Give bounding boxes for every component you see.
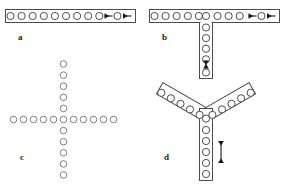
panel-label-b: b bbox=[162, 33, 167, 42]
bead bbox=[60, 161, 67, 168]
bead bbox=[60, 61, 67, 68]
bead bbox=[20, 116, 27, 123]
bead bbox=[60, 94, 67, 101]
bead bbox=[85, 12, 92, 19]
bead bbox=[247, 89, 254, 96]
bead bbox=[151, 12, 158, 19]
bead bbox=[173, 12, 180, 19]
bead bbox=[114, 12, 121, 19]
bead bbox=[60, 172, 67, 179]
bead bbox=[60, 138, 67, 145]
bead bbox=[202, 170, 209, 177]
bead bbox=[110, 116, 117, 123]
bead bbox=[29, 12, 36, 19]
bead bbox=[7, 12, 14, 19]
bead bbox=[162, 12, 169, 19]
bead bbox=[195, 12, 202, 19]
figure-svg bbox=[0, 0, 290, 191]
bead bbox=[218, 106, 225, 113]
bead bbox=[202, 126, 209, 133]
bead bbox=[186, 106, 193, 113]
bead bbox=[10, 116, 17, 123]
bead bbox=[202, 45, 209, 52]
bead bbox=[184, 12, 191, 19]
bead bbox=[40, 12, 47, 19]
panel-label-a: a bbox=[18, 33, 23, 42]
bead bbox=[202, 148, 209, 155]
bead bbox=[158, 89, 165, 96]
panel-a bbox=[6, 10, 136, 23]
bead bbox=[18, 12, 25, 19]
bead bbox=[60, 127, 67, 134]
panel-d bbox=[156, 83, 255, 181]
bead bbox=[74, 12, 81, 19]
panel-c-vertical-arm bbox=[60, 61, 67, 179]
bead bbox=[238, 95, 245, 102]
bead-junction bbox=[202, 12, 209, 19]
bead bbox=[60, 105, 67, 112]
bead bbox=[202, 24, 209, 31]
bead bbox=[196, 111, 203, 118]
bead bbox=[70, 116, 77, 123]
bead bbox=[202, 69, 209, 76]
bead bbox=[90, 116, 97, 123]
figure-canvas: a b c d bbox=[0, 0, 290, 191]
bead bbox=[202, 35, 209, 42]
bead bbox=[100, 116, 107, 123]
bead bbox=[214, 12, 221, 19]
bead bbox=[40, 116, 47, 123]
bead bbox=[96, 12, 103, 19]
panel-c bbox=[10, 61, 117, 179]
bead-center bbox=[60, 116, 67, 123]
bead bbox=[51, 12, 58, 19]
bead bbox=[60, 83, 67, 90]
bead bbox=[202, 159, 209, 166]
bead bbox=[167, 95, 174, 102]
bead bbox=[202, 137, 209, 144]
bead bbox=[225, 12, 232, 19]
bead bbox=[209, 111, 216, 118]
bead bbox=[30, 116, 37, 123]
bead bbox=[236, 12, 243, 19]
bead bbox=[60, 150, 67, 157]
panel-label-c: c bbox=[20, 153, 24, 162]
panel-label-d: d bbox=[164, 153, 169, 162]
panel-b bbox=[150, 10, 280, 79]
bead-junction bbox=[202, 115, 209, 122]
bead bbox=[177, 100, 184, 107]
bead bbox=[258, 12, 265, 19]
bead bbox=[80, 116, 87, 123]
bead bbox=[60, 72, 67, 79]
bead bbox=[228, 100, 235, 107]
bead bbox=[50, 116, 57, 123]
bead bbox=[62, 12, 69, 19]
